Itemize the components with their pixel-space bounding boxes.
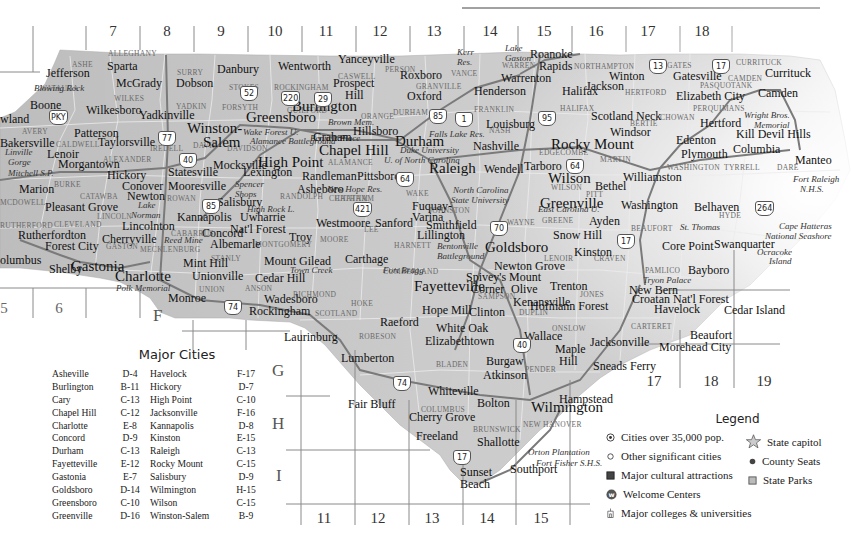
city-label: Warrenton (501, 72, 551, 84)
city-label: Cherry Grove (409, 411, 475, 423)
county-label: PERQUIMANS (693, 105, 745, 113)
grid-col-label: 14 (483, 23, 498, 40)
county-label: WILKES (114, 95, 144, 103)
city-label: Edenton (676, 134, 716, 146)
attraction-label: Bentonville (437, 242, 478, 251)
county-label: SCOTLAND (315, 310, 357, 318)
county-label: VANCE (451, 70, 477, 78)
major-city-label: Rocky Mount (551, 137, 634, 152)
major-city-label: Gastonia (71, 259, 124, 274)
attraction-label: Res. (457, 58, 472, 67)
grid-ref: D-8 (230, 420, 262, 433)
city-label: Elizabethtown (425, 335, 494, 347)
city-label: Cedar Hill (255, 272, 305, 284)
county-label: FRANKLIN (474, 106, 514, 114)
city-label: Morehead City (659, 341, 731, 353)
county-label: HERTFORD (625, 89, 667, 97)
city-label: Hillsboro (353, 125, 398, 137)
city-name: Fayetteville (52, 458, 110, 471)
city-label: Kill Devil Hills (736, 128, 811, 140)
county-label: DURHAM (393, 109, 428, 117)
grid-ref: D-14 (110, 484, 150, 497)
attraction-label: Gorge (8, 158, 31, 167)
legend-label: Cities over 35,000 pop. (621, 431, 724, 443)
city-label: Forest City (45, 240, 99, 252)
major-city-row: BurlingtonB-11HickoryD-7 (52, 381, 282, 394)
city-label: Southport (510, 463, 557, 475)
legend-item-other-cities: Other significant cities (606, 450, 721, 462)
grid-col-label: 18 (695, 23, 710, 40)
city-name: Wilmington (150, 484, 230, 497)
city-label: Randleman (302, 170, 357, 182)
county-label: BEAUFORT (631, 225, 673, 233)
legend-item-colleges: Major colleges & universities (606, 507, 751, 519)
county-label: PAMLICO (645, 267, 680, 275)
city-label: Ayden (589, 215, 620, 227)
dotted-circle-icon (606, 433, 615, 442)
grid-ref: F-17 (230, 368, 262, 381)
city-name: Salisbury (150, 471, 230, 484)
legend-item-large-cities: Cities over 35,000 pop. (606, 431, 724, 443)
city-label: Lillington (417, 229, 465, 241)
county-label: MCDOWELL (0, 199, 46, 207)
grid-col-label: 6 (55, 300, 63, 317)
grid-ref: F-16 (230, 407, 262, 420)
grid-col-label: 5 (0, 300, 8, 317)
city-label: Troy (289, 231, 312, 243)
city-label: Elizabeth City (676, 90, 745, 102)
city-name: Cary (52, 394, 110, 407)
legend: Legend (605, 412, 850, 428)
attraction-label: National Seashore (765, 232, 831, 241)
city-label: Nashville (473, 140, 519, 152)
city-label: Jefferson (46, 67, 90, 79)
major-city-row: DurhamC-13RaleighC-13 (52, 445, 282, 458)
city-label: Mount Gilead (264, 255, 331, 267)
city-label: Trenton (550, 280, 588, 292)
major-city-row: AshevilleD-4HavelockF-17 (52, 368, 282, 381)
attraction-label: N.H.S. (800, 185, 824, 194)
major-cities-title: Major Cities (72, 347, 282, 362)
city-label: Swanquarter (714, 238, 775, 250)
attraction-label: Wright Bros. (744, 111, 790, 120)
city-label: Columbia (733, 143, 780, 155)
legend-item-county-seats: County Seats (749, 455, 820, 467)
major-city-label: Greenville (540, 196, 603, 211)
legend-item-state-parks: State Parks (748, 474, 812, 486)
legend-item-state-capitol: State capitol (746, 434, 822, 449)
city-label: Snow Hill (553, 229, 602, 241)
attraction-label: Gaston (505, 54, 531, 63)
city-label: Taylorsville (98, 136, 155, 148)
attraction-label: Reed Mine (164, 236, 203, 245)
grid-ref: E-8 (110, 420, 150, 433)
grid-ref: C-10 (110, 497, 150, 510)
city-label: Asheboro (297, 183, 344, 195)
grid-col-label: 13 (425, 510, 440, 527)
grid-col-label: 14 (480, 510, 495, 527)
city-label: Wilkesboro (86, 104, 142, 116)
city-label: olumbus (0, 254, 41, 266)
dark-square-icon (606, 471, 615, 480)
highway-shield-icon: 52 (240, 86, 258, 101)
city-label: Freeland (416, 430, 458, 442)
county-label: GREENE (542, 217, 573, 225)
county-label: WAKE (406, 190, 429, 198)
city-label: Plymouth (681, 148, 728, 160)
attraction-label: Kerr (457, 48, 474, 57)
city-label: Burgaw (486, 355, 524, 367)
city-label: Albemarle (210, 238, 261, 250)
grid-row-label: F (153, 306, 162, 326)
grid-ref: C-13 (230, 445, 262, 458)
grid-ref: D-9 (230, 471, 262, 484)
county-label: BLADEN (436, 361, 468, 369)
city-label: Hill (559, 355, 578, 367)
attraction-label: North Carolina (453, 186, 508, 195)
grid-ref: E-15 (230, 432, 262, 445)
city-label: Dobson (176, 77, 213, 89)
county-label: ALAMANCE (328, 159, 373, 167)
city-label: Roxboro (400, 69, 442, 81)
college-icon (606, 507, 615, 519)
highway-shield-icon: 13 (649, 59, 667, 74)
grid-col-label: 8 (163, 23, 171, 40)
grid-ref: C-15 (230, 497, 262, 510)
major-city-row: FayettevilleE-12Rocky MountC-15 (52, 458, 282, 471)
